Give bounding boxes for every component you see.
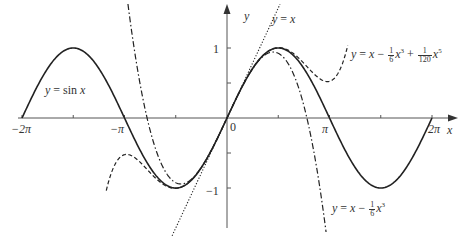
cubic-minus: − bbox=[355, 201, 368, 215]
origin-label: 0 bbox=[230, 121, 236, 133]
x-axis-arrow-icon bbox=[448, 115, 458, 122]
cubic-eq: = bbox=[337, 201, 350, 215]
y-tick-label-1: 1 bbox=[213, 43, 219, 55]
sin-curve-label: y = sin x bbox=[45, 84, 85, 96]
cubic-curve-label: y = x − 16x3 bbox=[332, 201, 385, 218]
x-tick-label-negpi: −π bbox=[110, 123, 124, 135]
taylor-series-chart: y x 0 1 −1 −2π −π π 2π y = sin x y = x y… bbox=[0, 0, 462, 239]
x-tick-label-neg2pi: −2π bbox=[11, 123, 31, 135]
cubic-frac-den: 6 bbox=[369, 210, 375, 218]
quintic-minus: − bbox=[374, 47, 387, 61]
quintic-frac1: 16 bbox=[388, 47, 394, 64]
quintic-frac1-den: 6 bbox=[388, 56, 394, 64]
linear-label-eq: = bbox=[277, 12, 290, 26]
y-axis-arrow-icon bbox=[224, 4, 231, 14]
x-axis-label: x bbox=[447, 124, 452, 136]
linear-curve-label: y = x bbox=[272, 13, 295, 25]
quintic-frac2-den: 120 bbox=[418, 56, 432, 64]
quintic-eq: = bbox=[356, 47, 369, 61]
linear-label-var: x bbox=[290, 12, 295, 26]
quintic-exp5: 5 bbox=[438, 47, 442, 55]
y-tick-label-neg1: −1 bbox=[206, 185, 219, 197]
quintic-frac2: 1120 bbox=[418, 47, 432, 64]
x-tick-label-pi: π bbox=[322, 123, 328, 135]
x-tick-label-2pi: 2π bbox=[428, 123, 440, 135]
y-axis-label: y bbox=[244, 10, 249, 22]
sin-label-var: x bbox=[80, 83, 85, 97]
cubic-exp: 3 bbox=[382, 201, 386, 209]
sin-label-eq: = sin bbox=[50, 83, 80, 97]
quintic-plus: + bbox=[404, 47, 417, 61]
cubic-frac: 16 bbox=[369, 201, 375, 218]
quintic-curve-label: y = x − 16x3 + 1120x5 bbox=[351, 47, 442, 64]
